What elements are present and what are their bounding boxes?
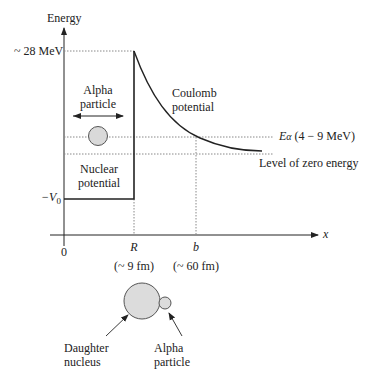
alpha-pointer-arrow: [169, 313, 182, 336]
daughter-nucleus-label: Daughter nucleus: [64, 341, 109, 369]
well-depth-label: −V0: [41, 190, 61, 208]
b-value: (~ 60 fm): [168, 259, 224, 273]
daughter-pointer-arrow: [106, 315, 128, 336]
alpha-particle-circle: [159, 297, 171, 309]
alpha-particle-region-label: Alpha particle: [74, 83, 122, 111]
alpha-particle-label: Alpha particle: [154, 341, 190, 369]
nuclear-potential-label: Nuclear potential: [74, 162, 124, 190]
b-label: b: [186, 240, 206, 254]
x-axis-label: x: [323, 227, 328, 241]
daughter-nucleus-circle: [124, 283, 160, 319]
barrier-top-label: ~ 28 MeV: [14, 44, 63, 58]
alpha-energy-label: Eα (4 − 9 MeV): [279, 129, 355, 144]
y-axis-label: Energy: [47, 11, 81, 25]
zero-energy-label: Level of zero energy: [259, 156, 358, 170]
coulomb-potential-label: Coulomb potential: [172, 86, 217, 114]
R-label: R: [124, 240, 144, 254]
R-value: (~ 9 fm): [109, 259, 159, 273]
origin-label: 0: [61, 245, 67, 259]
alpha-particle-in-well: [89, 127, 108, 146]
